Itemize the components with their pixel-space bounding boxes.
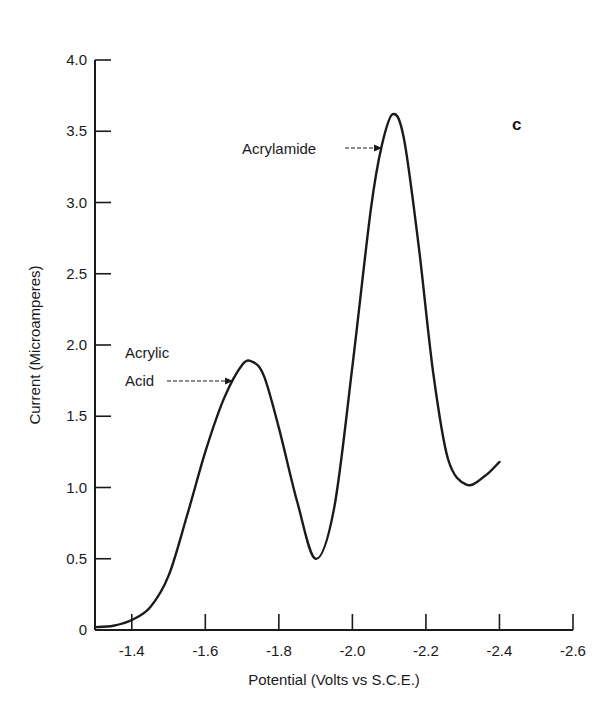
y-tick-label: 2.0 — [66, 336, 87, 353]
peak-annotations: AcrylicAcidAcrylamide — [125, 140, 381, 389]
polarogram-curve — [95, 114, 500, 627]
x-tick-label: -2.2 — [413, 642, 439, 659]
x-tick-label: -2.6 — [560, 642, 586, 659]
panel-label: c — [512, 115, 521, 134]
annotation-acrylic-acid-line2: Acid — [125, 372, 154, 389]
y-tick-label: 0 — [79, 621, 87, 638]
y-tick-label: 1.0 — [66, 479, 87, 496]
y-tick-label: 1.5 — [66, 407, 87, 424]
x-axis-ticks: -1.4-1.6-1.8-2.0-2.2-2.4-2.6 — [119, 614, 586, 659]
x-tick-label: -2.0 — [339, 642, 365, 659]
polarogram-chart: 00.51.01.52.02.53.03.54.0 -1.4-1.6-1.8-2… — [0, 0, 616, 711]
annotation-acrylic-acid-line1: Acrylic — [125, 344, 170, 361]
x-tick-label: -1.4 — [119, 642, 145, 659]
y-tick-label: 4.0 — [66, 51, 87, 68]
x-axis-title: Potential (Volts vs S.C.E.) — [248, 671, 420, 688]
y-tick-label: 0.5 — [66, 550, 87, 567]
y-tick-label: 3.0 — [66, 194, 87, 211]
y-tick-label: 3.5 — [66, 122, 87, 139]
annotation-acrylamide: Acrylamide — [242, 140, 316, 157]
x-tick-label: -1.6 — [192, 642, 218, 659]
y-tick-label: 2.5 — [66, 265, 87, 282]
x-tick-label: -2.4 — [487, 642, 513, 659]
y-axis-ticks: 00.51.01.52.02.53.03.54.0 — [66, 51, 111, 638]
y-axis-title: Current (Microamperes) — [26, 265, 43, 424]
x-tick-label: -1.8 — [266, 642, 292, 659]
